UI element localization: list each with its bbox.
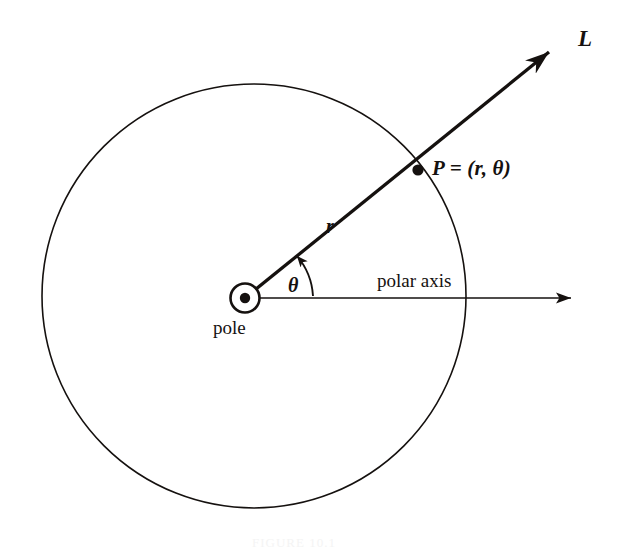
angle-arc: [297, 256, 313, 296]
point-label-P: P = (r, θ): [432, 158, 511, 179]
radius-label-r: r: [326, 216, 334, 236]
pole-dot: [240, 293, 250, 303]
polar-diagram-figure: L P = (r, θ) r θ polar axis pole FIGURE …: [0, 0, 625, 555]
pole-label: pole: [213, 318, 246, 337]
diagram-canvas: [0, 0, 625, 555]
polar-axis-label: polar axis: [377, 271, 451, 290]
point-P-marker: [412, 164, 423, 175]
faint-caption: FIGURE 10.1: [252, 536, 336, 549]
ray-label-L: L: [578, 27, 592, 50]
angle-label-theta: θ: [288, 275, 298, 295]
